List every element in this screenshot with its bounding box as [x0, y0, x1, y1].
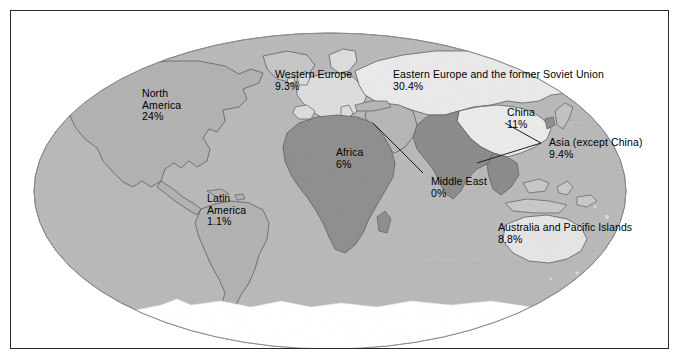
- label-china-percent: 11%: [507, 119, 535, 131]
- label-western-europe-percent: 9.3%: [275, 81, 352, 93]
- label-australia-pacific-percent: 8.8%: [498, 234, 632, 246]
- label-africa: Africa 6%: [336, 147, 363, 170]
- label-africa-name: Africa: [336, 147, 363, 159]
- label-north-america-name-line1: North: [142, 88, 181, 100]
- world-map-graphic: [11, 11, 668, 348]
- paper-grain: [11, 11, 668, 348]
- label-latin-america-name-line1: Latin: [207, 193, 246, 205]
- label-north-america: North America 24%: [142, 88, 181, 123]
- label-asia-except-china-percent: 9.4%: [549, 149, 643, 161]
- label-australia-pacific: Australia and Pacific Islands 8.8%: [498, 222, 632, 245]
- label-western-europe-name: Western Europe: [275, 69, 352, 81]
- region-new-zealand: [607, 255, 623, 279]
- label-latin-america: Latin America 1.1%: [207, 193, 246, 228]
- label-eastern-europe-percent: 30.4%: [393, 81, 604, 93]
- label-middle-east-percent: 0%: [431, 188, 487, 200]
- label-africa-percent: 6%: [336, 159, 363, 171]
- label-middle-east: Middle East 0%: [431, 176, 487, 199]
- label-latin-america-percent: 1.1%: [207, 216, 246, 228]
- label-asia-except-china: Asia (except China) 9.4%: [549, 137, 643, 160]
- label-china-name: China: [507, 107, 535, 119]
- label-north-america-percent: 24%: [142, 111, 181, 123]
- label-china: China 11%: [507, 107, 535, 130]
- figure-frame: North America 24% Latin America 1.1% Wes…: [10, 10, 669, 349]
- label-australia-pacific-name: Australia and Pacific Islands: [498, 222, 632, 234]
- globe-container: [11, 11, 668, 348]
- world-map-figure: North America 24% Latin America 1.1% Wes…: [0, 0, 680, 362]
- label-western-europe: Western Europe 9.3%: [275, 69, 352, 92]
- label-eastern-europe-name: Eastern Europe and the former Soviet Uni…: [393, 69, 604, 81]
- label-middle-east-name: Middle East: [431, 176, 487, 188]
- label-eastern-europe: Eastern Europe and the former Soviet Uni…: [393, 69, 604, 92]
- label-asia-except-china-name: Asia (except China): [549, 137, 643, 149]
